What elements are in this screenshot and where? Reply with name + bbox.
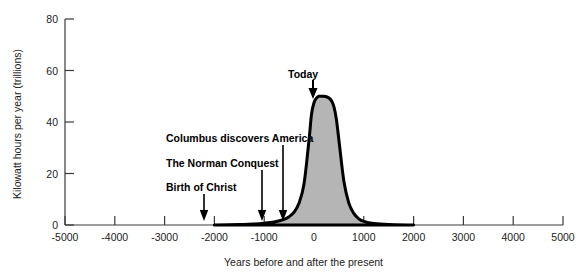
x-tick-label-1000: 1000 xyxy=(341,231,387,243)
x-tick-label-2000: 2000 xyxy=(391,231,437,243)
x-axis-title: Years before and after the present xyxy=(224,256,383,268)
x-tick-label-minus-5000: -5000 xyxy=(42,231,88,243)
y-tick-label-60: 60 xyxy=(32,65,58,77)
x-tick-label-3000: 3000 xyxy=(440,231,486,243)
x-tick-label-0: 0 xyxy=(291,231,337,243)
y-tick-label-20: 20 xyxy=(32,168,58,180)
annotation-birth-of-christ: Birth of Christ xyxy=(166,181,237,193)
x-tick-label-minus-2000: -2000 xyxy=(191,231,237,243)
annotation-the-norman-conquest: The Norman Conquest xyxy=(166,157,279,169)
x-tick-label-minus-1000: -1000 xyxy=(241,231,287,243)
x-tick-label-4000: 4000 xyxy=(490,231,536,243)
y-tick-label-40: 40 xyxy=(32,116,58,128)
y-axis-title: Kilowatt hours per year (trillions) xyxy=(11,34,23,214)
x-tick-label-5000: 5000 xyxy=(540,231,577,243)
annotation-columbus-discovers-america: Columbus discovers America xyxy=(166,132,313,144)
annotation-today: Today xyxy=(288,68,318,80)
x-tick-label-minus-3000: -3000 xyxy=(142,231,188,243)
x-tick-label-minus-4000: -4000 xyxy=(92,231,138,243)
y-tick-label-0: 0 xyxy=(32,219,58,231)
chart-figure: 80 60 40 20 0 -5000 -4000 -3000 -2000 -1… xyxy=(0,0,577,274)
y-tick-label-80: 80 xyxy=(32,13,58,25)
